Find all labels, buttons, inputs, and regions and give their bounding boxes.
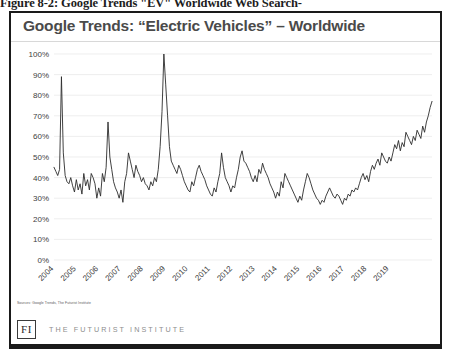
svg-text:2016: 2016 <box>305 264 324 283</box>
svg-text:2011: 2011 <box>193 264 212 283</box>
trends-line-chart: 0%10%20%30%40%50%60%70%80%90%100% 200420… <box>11 42 440 312</box>
svg-text:2007: 2007 <box>104 264 123 283</box>
svg-text:80%: 80% <box>33 91 49 100</box>
chart-y-axis-labels: 0%10%20%30%40%50%60%70%80%90%100% <box>29 50 49 265</box>
figure-page: Figure 8-2: Google Trends "EV" Worldwide… <box>0 0 451 357</box>
svg-text:2008: 2008 <box>126 264 145 283</box>
svg-text:2014: 2014 <box>260 264 279 283</box>
svg-text:10%: 10% <box>33 235 49 244</box>
svg-text:2017: 2017 <box>327 264 346 283</box>
chart-source-note: Sources: Google Trends, The Futurist Ins… <box>17 301 91 305</box>
svg-text:2004: 2004 <box>36 264 55 283</box>
svg-text:2015: 2015 <box>282 264 301 283</box>
futurist-institute-logo: FI <box>17 320 36 339</box>
futurist-institute-wordmark: THE FUTURIST INSTITUTE <box>49 325 186 334</box>
svg-text:90%: 90% <box>33 71 49 80</box>
svg-text:50%: 50% <box>33 153 49 162</box>
svg-text:100%: 100% <box>29 50 49 59</box>
svg-text:40%: 40% <box>33 174 49 183</box>
chart-x-axis-labels: 2004200520062007200820092010201120122013… <box>36 264 391 283</box>
chart-plot-area: 0%10%20%30%40%50%60%70%80%90%100% 200420… <box>11 42 440 312</box>
svg-text:20%: 20% <box>33 215 49 224</box>
svg-text:2013: 2013 <box>238 264 257 283</box>
figure-frame: Google Trends: “Electric Vehicles” – Wor… <box>9 11 442 349</box>
figure-footer: FI THE FUTURIST INSTITUTE <box>11 311 440 347</box>
footer-divider <box>11 344 440 347</box>
chart-data-line <box>54 54 432 204</box>
svg-text:60%: 60% <box>33 132 49 141</box>
svg-text:30%: 30% <box>33 194 49 203</box>
chart-title: Google Trends: “Electric Vehicles” – Wor… <box>23 17 365 35</box>
svg-text:2010: 2010 <box>171 264 190 283</box>
svg-text:2006: 2006 <box>81 264 100 283</box>
svg-text:2005: 2005 <box>59 264 78 283</box>
svg-text:2009: 2009 <box>148 264 167 283</box>
svg-text:2018: 2018 <box>349 264 368 283</box>
svg-text:0%: 0% <box>37 256 49 265</box>
svg-text:2019: 2019 <box>372 264 391 283</box>
svg-text:2012: 2012 <box>215 264 234 283</box>
book-figure-caption: Figure 8-2: Google Trends "EV" Worldwide… <box>0 0 451 11</box>
svg-text:70%: 70% <box>33 112 49 121</box>
